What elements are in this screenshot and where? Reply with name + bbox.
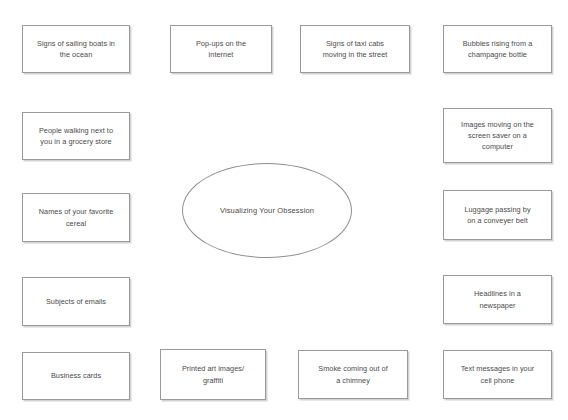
central-topic-node[interactable]: Visualizing Your Obsession bbox=[182, 163, 352, 258]
node-printed-art[interactable]: Printed art images/ graffiti bbox=[160, 349, 266, 400]
node-sailing-boats[interactable]: Signs of sailing boats in the ocean bbox=[22, 25, 130, 73]
node-label: Signs of taxi cabs moving in the street bbox=[316, 38, 395, 61]
node-screen-saver[interactable]: Images moving on the screen saver on a c… bbox=[443, 108, 552, 163]
node-smoke-chimney[interactable]: Smoke coming out of a chimney bbox=[298, 350, 408, 399]
node-label: Pop-ups on the internet bbox=[189, 38, 253, 61]
node-email-subjects[interactable]: Subjects of emails bbox=[22, 277, 130, 326]
node-headlines-newspaper[interactable]: Headlines in a newspaper bbox=[443, 275, 552, 324]
node-label: Business cards bbox=[44, 370, 108, 381]
node-people-walking[interactable]: People walking next to you in a grocery … bbox=[22, 112, 130, 160]
node-taxi-cabs[interactable]: Signs of taxi cabs moving in the street bbox=[300, 25, 410, 73]
node-pop-ups[interactable]: Pop-ups on the internet bbox=[170, 25, 272, 73]
node-label: People walking next to you in a grocery … bbox=[32, 125, 120, 148]
node-label: Bubbles rising from a champagne bottle bbox=[456, 38, 540, 61]
node-label: Names of your favorite cereal bbox=[32, 206, 121, 229]
node-label: Text messages in your cell phone bbox=[454, 363, 542, 386]
node-label: Signs of sailing boats in the ocean bbox=[30, 38, 122, 61]
node-text-messages[interactable]: Text messages in your cell phone bbox=[443, 350, 552, 399]
diagram-canvas: Visualizing Your ObsessionSigns of saili… bbox=[0, 0, 568, 420]
node-label: Images moving on the screen saver on a c… bbox=[454, 119, 541, 153]
node-favorite-cereal[interactable]: Names of your favorite cereal bbox=[22, 193, 130, 242]
node-bubbles-champagne[interactable]: Bubbles rising from a champagne bottle bbox=[443, 25, 552, 73]
node-label: Printed art images/ graffiti bbox=[175, 363, 251, 386]
node-business-cards[interactable]: Business cards bbox=[22, 352, 130, 400]
node-label: Smoke coming out of a chimney bbox=[311, 363, 395, 386]
node-label: Luggage passing by on a conveyer belt bbox=[457, 204, 537, 227]
node-label: Headlines in a newspaper bbox=[467, 288, 528, 311]
node-luggage-conveyer[interactable]: Luggage passing by on a conveyer belt bbox=[443, 190, 552, 240]
central-topic-label: Visualizing Your Obsession bbox=[220, 205, 314, 216]
node-label: Subjects of emails bbox=[39, 296, 113, 307]
